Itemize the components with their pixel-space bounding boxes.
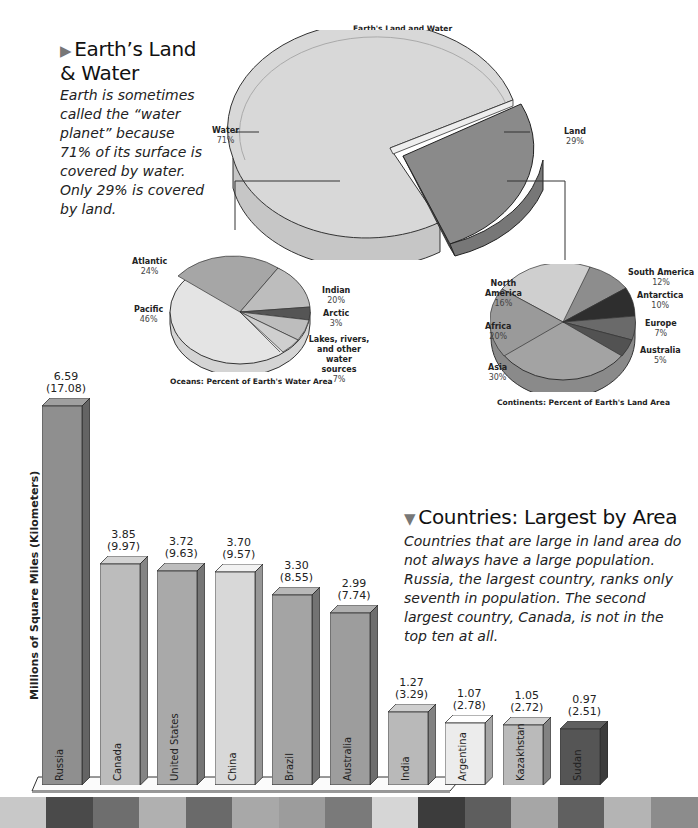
label-atlantic-name: Atlantic — [132, 257, 167, 266]
oceans-pie-chart — [168, 252, 313, 372]
bar-australia — [330, 605, 378, 785]
label-asia-pct: 30% — [488, 373, 507, 383]
countries-title-text: Countries: Largest by Area — [418, 505, 677, 529]
label-land: Land 29% — [564, 127, 586, 147]
bar-india — [388, 704, 436, 785]
bar-value-label: 1.27(3.29) — [382, 677, 442, 701]
label-australia-pct: 5% — [640, 356, 681, 366]
stripe-block — [511, 797, 558, 828]
label-pacific-name: Pacific — [134, 305, 163, 314]
stripe-block — [46, 797, 93, 828]
label-antarctica-name: Antarctica — [637, 291, 684, 300]
label-indian-pct: 20% — [322, 296, 350, 306]
stripe-block — [232, 797, 279, 828]
stripe-block — [139, 797, 186, 828]
bar-russia — [42, 398, 90, 785]
bar-value-label: 3.30(8.55) — [266, 560, 326, 584]
bar-value-label: 6.59(17.08) — [36, 371, 96, 395]
label-indian: Indian 20% — [322, 286, 350, 306]
bar-category-label: Kazakhstan — [515, 723, 526, 781]
section-title-land-water: ▶Earth’s Land & Water — [60, 38, 196, 84]
countries-text: Countries that are large in land area do… — [404, 532, 684, 646]
label-antarctica-pct: 10% — [637, 301, 684, 311]
stripe-block — [186, 797, 233, 828]
label-land-pct: 29% — [564, 137, 586, 147]
label-water: Water 71% — [212, 126, 239, 146]
section-title-countries: ▼Countries: Largest by Area — [404, 506, 677, 530]
label-na-l2: America — [485, 289, 522, 298]
bar-category-label: Australia — [342, 737, 353, 781]
bar-china — [215, 564, 263, 785]
triangle-down-icon: ▼ — [404, 510, 415, 528]
bar-canada — [100, 556, 148, 785]
stripe-block — [325, 797, 372, 828]
bar-category-label: Brazil — [284, 753, 295, 781]
intro-text: Earth is sometimes called the “water pla… — [60, 86, 210, 219]
stripe-block — [604, 797, 651, 828]
label-north-america: North America 16% — [485, 279, 522, 309]
stripe-block — [279, 797, 326, 828]
bar-category-label: Sudan — [572, 750, 583, 782]
bar-argentina — [445, 715, 493, 785]
bar-value-label: 3.85(9.97) — [94, 529, 154, 553]
label-lakes-l3: sources — [322, 365, 357, 374]
label-sa-pct: 12% — [628, 278, 694, 288]
label-water-name: Water — [212, 126, 239, 135]
stripe-block — [558, 797, 605, 828]
label-asia-name: Asia — [488, 363, 507, 372]
triangle-right-icon: ▶ — [60, 42, 71, 60]
label-europe: Europe 7% — [645, 319, 677, 339]
bar-value-label: 0.97(2.51) — [554, 694, 614, 718]
label-sa-name: South America — [628, 268, 694, 277]
label-europe-name: Europe — [645, 319, 677, 328]
label-south-america: South America 12% — [628, 268, 694, 288]
continents-pie-title: Continents: Percent of Earth's Land Area — [497, 398, 670, 407]
bar-kazakhstan — [503, 717, 551, 785]
title-line1: Earth’s Land — [74, 37, 196, 61]
bar-category-label: Argentina — [457, 732, 468, 781]
label-pacific-pct: 46% — [134, 315, 163, 325]
stripe-block — [651, 797, 698, 828]
bar-category-label: Russia — [54, 749, 65, 781]
label-na-pct: 16% — [485, 299, 522, 309]
bar-category-label: United States — [169, 713, 180, 781]
label-australia-name: Australia — [640, 346, 681, 355]
oceans-pie-title: Oceans: Percent of Earth's Water Area — [170, 377, 333, 386]
label-pacific: Pacific 46% — [134, 305, 163, 325]
bar-brazil — [272, 587, 320, 785]
label-asia: Asia 30% — [488, 363, 507, 383]
label-indian-name: Indian — [322, 286, 350, 295]
main-pie-chart — [225, 30, 585, 260]
bar-value-label: 1.05(2.72) — [497, 690, 557, 714]
label-land-name: Land — [564, 127, 586, 136]
label-africa-pct: 20% — [485, 332, 512, 342]
label-australia: Australia 5% — [640, 346, 681, 366]
stripe-block — [418, 797, 465, 828]
stripe-block — [0, 797, 47, 828]
bar-category-label: Canada — [112, 743, 123, 781]
label-europe-pct: 7% — [645, 329, 677, 339]
bar-category-label: China — [227, 752, 238, 781]
stripe-block — [465, 797, 512, 828]
y-axis-label: Millions of Square Miles (Kilometers) — [28, 471, 41, 700]
bar-value-label: 3.70(9.57) — [209, 537, 269, 561]
bar-sudan — [560, 721, 608, 785]
label-atlantic: Atlantic 24% — [132, 257, 167, 277]
label-arctic-pct: 3% — [323, 319, 349, 329]
label-arctic-name: Arctic — [323, 309, 349, 318]
bar-value-label: 2.99(7.74) — [324, 578, 384, 602]
bar-category-label: India — [400, 756, 411, 781]
title-line2: & Water — [60, 61, 139, 85]
bar-value-label: 3.72(9.63) — [151, 536, 211, 560]
label-lakes-l2: and other water — [317, 345, 361, 364]
label-arctic: Arctic 3% — [323, 309, 349, 329]
label-na-l1: North — [491, 279, 517, 288]
label-water-pct: 71% — [212, 136, 239, 146]
label-lakes-l1: Lakes, rivers, — [309, 335, 370, 344]
label-antarctica: Antarctica 10% — [637, 291, 684, 311]
label-africa-name: Africa — [485, 322, 512, 331]
bar-united-states — [157, 563, 205, 785]
stripe-block — [372, 797, 419, 828]
stripe-block — [93, 797, 140, 828]
label-africa: Africa 20% — [485, 322, 512, 342]
